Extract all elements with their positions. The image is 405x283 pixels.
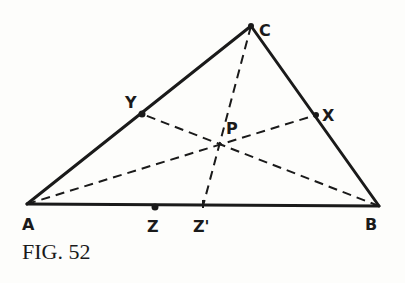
label-z-prime: Z' [193,217,210,236]
label-b: B [365,215,377,234]
point-x [313,112,319,118]
cevian-ax [27,115,316,204]
figure-caption: FIG. 52 [22,239,90,264]
label-z: Z [147,217,159,236]
point-y [139,111,146,118]
label-p: P [226,119,238,138]
label-y: Y [124,93,137,112]
label-a: A [22,215,35,234]
cevian-cz-prime [203,26,251,206]
label-c: C [259,21,271,40]
cevian-by [142,114,379,206]
point-z [152,204,159,211]
point-c [248,23,254,29]
label-x: X [322,106,335,125]
cevians-triangle-diagram: C Y X P A Z Z' B FIG. 52 [0,0,405,283]
